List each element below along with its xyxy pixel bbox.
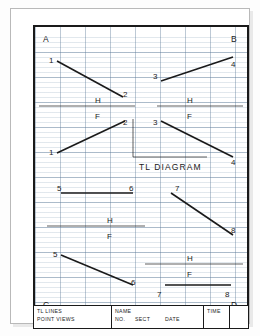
d-top-8-label: 8 bbox=[231, 227, 236, 235]
line-3-4-top bbox=[161, 57, 233, 81]
name-label: NAME bbox=[115, 308, 200, 316]
title-block-name-cell: NAME NO. SECT DATE bbox=[112, 306, 204, 328]
drawing-sheet: ABCDHFHFHFHF1221343456567878TL DIAGRAM T… bbox=[10, 8, 250, 324]
quad-c-h-label: H bbox=[107, 217, 113, 225]
title-block-description-cell: TL LINES POINT VIEWS bbox=[34, 306, 112, 328]
c-bot-6-label: 6 bbox=[131, 279, 136, 287]
c-top-6-label: 6 bbox=[129, 185, 134, 193]
quad-c-f-label: F bbox=[107, 233, 112, 241]
a-top-2-label: 2 bbox=[123, 91, 128, 99]
drawing-page: ABCDHFHFHFHF1221343456567878TL DIAGRAM T… bbox=[0, 0, 260, 336]
tl-diagram-caption: TL DIAGRAM bbox=[139, 163, 202, 171]
c-bot-5-label: 5 bbox=[53, 251, 58, 259]
title-block: TL LINES POINT VIEWS NAME NO. SECT DATE … bbox=[33, 305, 249, 329]
drawing-frame: ABCDHFHFHFHF1221343456567878TL DIAGRAM bbox=[33, 25, 249, 329]
A-label: A bbox=[43, 35, 49, 43]
d-bot-7-label: 7 bbox=[157, 291, 162, 299]
name-subfields: NO. SECT DATE bbox=[115, 316, 200, 324]
quad-b-f-label: F bbox=[187, 113, 192, 121]
line-1-2-bottom bbox=[57, 121, 125, 153]
d-bot-8-label: 8 bbox=[225, 291, 230, 299]
quad-a-f-label: F bbox=[95, 113, 100, 121]
a-bot-1-label: 1 bbox=[49, 149, 54, 157]
quad-d-h-label: H bbox=[187, 255, 193, 263]
title-block-line-2: POINT VIEWS bbox=[37, 316, 108, 324]
line-7-8-top bbox=[171, 193, 233, 235]
b-top-4-label: 4 bbox=[231, 61, 236, 69]
no-label: NO. bbox=[115, 316, 135, 324]
a-bot-2-label: 2 bbox=[123, 119, 128, 127]
sect-label: SECT bbox=[135, 316, 165, 324]
b-top-3-label: 3 bbox=[153, 73, 158, 81]
line-1-2-top bbox=[57, 61, 123, 97]
sketch-canvas bbox=[35, 27, 247, 327]
quad-a-h-label: H bbox=[95, 97, 101, 105]
d-top-7-label: 7 bbox=[175, 185, 180, 193]
title-block-line-1: TL LINES bbox=[37, 308, 108, 316]
quad-d-f-label: F bbox=[187, 271, 192, 279]
title-block-time-cell: TIME bbox=[204, 306, 230, 328]
date-label: DATE bbox=[165, 316, 195, 324]
B-label: B bbox=[231, 35, 237, 43]
title-block-blank-cell bbox=[230, 306, 248, 328]
c-top-5-label: 5 bbox=[57, 185, 62, 193]
b-bot-4-label: 4 bbox=[231, 159, 236, 167]
line-3-4-bottom bbox=[161, 121, 233, 157]
quad-b-h-label: H bbox=[187, 97, 193, 105]
a-top-1-label: 1 bbox=[49, 57, 54, 65]
line-5-6-bottom bbox=[61, 255, 133, 285]
time-label: TIME bbox=[207, 308, 226, 316]
b-bot-3-label: 3 bbox=[153, 119, 158, 127]
